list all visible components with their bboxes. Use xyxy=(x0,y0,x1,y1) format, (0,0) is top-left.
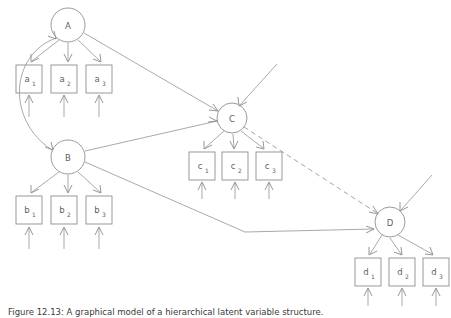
box-c3[interactable]: c 3 xyxy=(256,152,282,180)
box-a3[interactable]: a 3 xyxy=(86,65,112,93)
edge-d-to-d2 xyxy=(390,238,402,255)
box-b1-sub: 1 xyxy=(32,211,36,218)
node-b[interactable]: B xyxy=(51,140,85,174)
box-d2-sub: 2 xyxy=(405,273,409,280)
box-b2-sub: 2 xyxy=(67,211,71,218)
noise-arrow-c2 xyxy=(231,182,239,199)
node-b-label: B xyxy=(65,153,71,163)
box-d1-sub: 1 xyxy=(371,273,375,280)
edge-a-to-a3 xyxy=(78,40,101,62)
box-b2-base: b xyxy=(59,205,64,215)
box-c2[interactable]: c 2 xyxy=(222,152,248,180)
noise-arrow-a3 xyxy=(95,95,103,117)
edge-c-to-c3 xyxy=(241,131,264,149)
box-d1[interactable]: d 1 xyxy=(355,258,381,286)
edge-external-to-c xyxy=(238,64,277,106)
noise-arrow-a2 xyxy=(60,95,68,117)
node-c[interactable]: C xyxy=(217,103,247,133)
box-d3-base: d xyxy=(431,267,436,277)
graphical-model-diagram: A B C D a 1 a 2 a 3 xyxy=(0,0,451,318)
box-c2-sub: 2 xyxy=(238,167,242,174)
edge-b-c xyxy=(85,117,217,151)
noise-arrow-d3 xyxy=(432,288,440,306)
node-a[interactable]: A xyxy=(51,8,85,42)
figure-caption: Figure 12.13: A graphical model of a hie… xyxy=(8,307,448,317)
box-b2[interactable]: b 2 xyxy=(51,196,77,224)
box-b1[interactable]: b 1 xyxy=(16,196,42,224)
box-d2[interactable]: d 2 xyxy=(389,258,415,286)
box-c3-sub: 3 xyxy=(272,167,276,174)
node-a-label: A xyxy=(65,21,71,31)
edge-external-to-d xyxy=(400,175,432,211)
edge-d-to-d3 xyxy=(398,235,433,255)
box-b3-base: b xyxy=(94,205,99,215)
box-c2-base: c xyxy=(231,161,236,171)
noise-arrow-a1 xyxy=(25,95,33,117)
box-a3-base: a xyxy=(94,74,99,84)
noise-arrow-b2 xyxy=(60,227,68,249)
box-d1-base: d xyxy=(363,267,368,277)
edge-a-b-curved xyxy=(19,31,56,150)
box-a2-base: a xyxy=(59,74,64,84)
edge-c-to-c2 xyxy=(230,134,238,149)
edge-a-c xyxy=(84,33,218,111)
edge-b-to-b3 xyxy=(78,172,101,193)
edge-d-to-d1 xyxy=(369,235,382,255)
node-c-label: C xyxy=(229,114,235,124)
edge-b-to-b2 xyxy=(64,175,72,193)
edge-b-d xyxy=(85,162,374,233)
box-c1[interactable]: c 1 xyxy=(189,152,215,180)
node-d-label: D xyxy=(387,218,394,228)
noise-arrow-d2 xyxy=(398,288,406,306)
box-d3[interactable]: d 3 xyxy=(423,258,449,286)
box-a2[interactable]: a 2 xyxy=(51,65,77,93)
box-d3-sub: 3 xyxy=(439,273,443,280)
box-b3[interactable]: b 3 xyxy=(86,196,112,224)
box-c1-sub: 1 xyxy=(205,167,209,174)
noise-arrow-c3 xyxy=(265,182,273,199)
noise-arrow-b1 xyxy=(25,227,33,249)
node-d[interactable]: D xyxy=(375,207,405,237)
box-a2-sub: 2 xyxy=(67,80,71,87)
noise-arrow-b3 xyxy=(95,227,103,249)
box-a3-sub: 3 xyxy=(102,80,106,87)
noise-arrow-c1 xyxy=(198,182,206,199)
edge-b-to-b1 xyxy=(31,172,59,193)
box-a1-base: a xyxy=(24,74,29,84)
box-d2-base: d xyxy=(397,267,402,277)
box-c3-base: c xyxy=(265,161,270,171)
edge-c-to-c1 xyxy=(204,131,224,149)
box-b3-sub: 3 xyxy=(102,211,106,218)
box-b1-base: b xyxy=(24,205,29,215)
noise-arrow-d1 xyxy=(364,288,372,306)
box-a1-sub: 1 xyxy=(32,80,36,87)
edge-a-to-a2 xyxy=(64,43,72,62)
figure-canvas: A B C D a 1 a 2 a 3 xyxy=(0,0,451,318)
box-c1-base: c xyxy=(198,161,203,171)
